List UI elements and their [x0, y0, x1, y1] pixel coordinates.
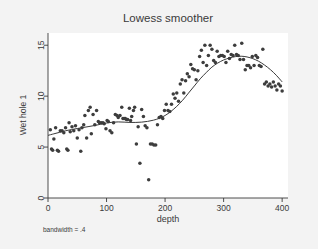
y-tick-label: 0	[36, 195, 46, 200]
scatter-point	[87, 109, 91, 113]
scatter-point	[66, 148, 70, 152]
scatter-point	[142, 115, 146, 119]
scatter-point	[201, 61, 205, 64]
scatter-point	[196, 69, 200, 73]
scatter-point	[272, 80, 276, 84]
scatter-point	[280, 89, 284, 93]
scatter-point	[172, 92, 176, 96]
scatter-point	[215, 50, 219, 54]
scatter-point	[186, 72, 190, 76]
scatter-point	[226, 50, 230, 54]
x-tick-label: 0	[46, 203, 51, 213]
scatter-point	[90, 132, 94, 136]
scatter-point	[210, 48, 214, 52]
scatter-point	[138, 162, 142, 166]
scatter-point	[135, 142, 139, 146]
y-axis-label: Wet hole 1	[18, 94, 28, 135]
x-axis-label: depth	[157, 214, 180, 224]
scatter-point	[187, 75, 191, 79]
scatter-point	[91, 113, 95, 117]
scatter-point	[203, 43, 207, 47]
scatter-point	[180, 78, 184, 82]
scatter-point	[249, 66, 253, 70]
x-tick-label: 300	[217, 203, 231, 213]
scatter-point	[224, 61, 228, 64]
scatter-point	[268, 82, 272, 86]
scatter-point	[179, 82, 183, 86]
scatter-point	[184, 79, 188, 83]
scatter-point	[67, 121, 71, 125]
scatter-point	[128, 107, 132, 111]
scatter-point	[173, 96, 177, 100]
scatter-point	[64, 126, 68, 130]
scatter-point	[170, 103, 174, 107]
scatter-point	[252, 64, 256, 68]
scatter-point	[70, 125, 74, 129]
scatter-point	[244, 68, 248, 72]
scatter-point	[194, 78, 198, 82]
scatter-point	[154, 143, 158, 147]
scatter-point	[200, 49, 204, 53]
scatter-point	[270, 85, 274, 89]
scatter-point	[110, 131, 114, 135]
scatter-point	[83, 114, 87, 118]
scatter-point	[259, 65, 263, 69]
scatter-point	[136, 125, 140, 129]
scatter-point	[189, 63, 193, 67]
chart-title: Lowess smoother	[123, 12, 213, 24]
scatter-point	[95, 109, 99, 113]
scatter-point	[76, 136, 80, 140]
scatter-point	[74, 124, 78, 128]
y-tick-label: 5	[36, 144, 46, 149]
lowess-scatter-plot: Lowess smoother 0100200300400 051015 dep…	[0, 0, 318, 249]
scatter-point	[256, 56, 260, 60]
scatter-point	[164, 103, 168, 107]
scatter-point	[275, 88, 279, 92]
scatter-point	[175, 91, 179, 95]
chart-figure: Lowess smoother 0100200300400 051015 dep…	[0, 0, 318, 249]
scatter-point	[208, 43, 212, 47]
y-tick-label: 15	[36, 40, 46, 50]
scatter-point	[163, 109, 167, 113]
scatter-point	[147, 178, 151, 182]
bandwidth-note: bandwidth = .4	[43, 226, 86, 233]
scatter-point	[240, 41, 244, 45]
scatter-point	[242, 58, 246, 62]
scatter-point	[79, 149, 83, 153]
x-tick-label: 100	[99, 203, 113, 213]
scatter-point	[49, 128, 53, 132]
scatter-point	[129, 119, 133, 123]
scatter-point	[261, 48, 265, 52]
scatter-point	[238, 58, 242, 62]
scatter-point	[132, 109, 136, 113]
scatter-point	[140, 108, 144, 112]
scatter-point	[233, 43, 237, 47]
scatter-point	[177, 99, 181, 103]
scatter-point	[82, 123, 86, 127]
scatter-point	[207, 54, 211, 58]
scatter-point	[88, 106, 92, 110]
scatter-point	[54, 126, 58, 130]
scatter-point	[205, 64, 209, 68]
scatter-point	[133, 106, 137, 110]
scatter-point	[265, 80, 269, 84]
scatter-point	[57, 149, 61, 153]
scatter-point	[222, 55, 226, 59]
scatter-point	[104, 127, 108, 131]
scatter-point	[51, 148, 55, 152]
scatter-point	[156, 123, 160, 127]
scatter-point	[85, 136, 89, 140]
scatter-point	[273, 84, 277, 88]
x-tick-label: 400	[275, 203, 289, 213]
scatter-point	[198, 55, 202, 59]
x-tick-label: 200	[158, 203, 172, 213]
scatter-point	[182, 91, 186, 95]
scatter-point	[193, 68, 197, 72]
scatter-point	[120, 106, 124, 110]
scatter-point	[279, 84, 283, 88]
scatter-point	[130, 115, 134, 119]
scatter-point	[68, 130, 72, 134]
scatter-point	[118, 114, 122, 118]
y-tick-label: 10	[36, 91, 46, 101]
scatter-point	[145, 126, 149, 130]
